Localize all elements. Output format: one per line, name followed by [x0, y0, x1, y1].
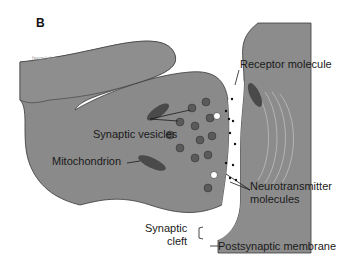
- synapse-diagram: faxon label: [0, 0, 351, 261]
- label-receptor-molecule: Receptor molecule: [240, 58, 332, 70]
- label-neurotransmitter-line2: molecules: [250, 193, 300, 205]
- label-synaptic-cleft-line2: cleft: [167, 235, 187, 247]
- label-neurotransmitter-line1: Neurotransmitter: [250, 180, 332, 192]
- panel-letter: B: [36, 16, 45, 30]
- label-postsynaptic-membrane: Postsynaptic membrane: [218, 240, 336, 252]
- svg-text:faxon label: faxon label: [32, 55, 56, 61]
- label-synaptic-vesicles: Synaptic vesicles: [93, 128, 177, 140]
- label-mitochondrion: Mitochondrion: [52, 155, 121, 167]
- label-synaptic-cleft-line1: Synaptic: [145, 222, 187, 234]
